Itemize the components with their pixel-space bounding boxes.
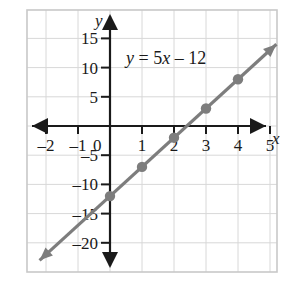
x-tick-label: 4	[234, 136, 243, 155]
y-axis-label: y	[93, 11, 103, 30]
y-tick-label: –20	[72, 234, 99, 253]
x-tick-label: –2	[37, 136, 55, 155]
equation-x: x	[161, 48, 170, 68]
y-tick-label: –5	[80, 146, 98, 165]
equation-equals: = 5	[134, 48, 162, 68]
equation-y: y	[124, 48, 134, 68]
coordinate-plane-svg: –2–1012345 15105–5–10–15–20 x y y = 5x –…	[0, 0, 295, 298]
y-tick-label: –10	[72, 175, 99, 194]
equation-annotation: y = 5x – 12	[124, 48, 206, 68]
graph-figure: –2–1012345 15105–5–10–15–20 x y y = 5x –…	[0, 0, 295, 298]
data-point	[233, 74, 243, 84]
y-tick-label: 5	[90, 88, 99, 107]
y-tick-label: 10	[81, 59, 98, 78]
data-point	[137, 162, 147, 172]
x-tick-label: 3	[202, 136, 211, 155]
data-point	[105, 191, 115, 201]
data-point	[201, 103, 211, 113]
x-axis-label: x	[271, 129, 280, 148]
y-tick-label: 15	[81, 29, 98, 48]
equation-tail: – 12	[170, 48, 206, 68]
x-tick-label: 1	[138, 136, 147, 155]
data-point	[169, 132, 179, 142]
